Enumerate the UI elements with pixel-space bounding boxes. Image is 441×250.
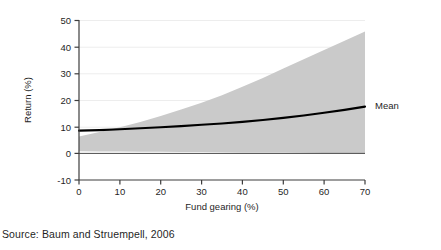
x-axis-tick-labels: 0 10 20 30 40 50 60 70	[76, 186, 370, 197]
figure-container: 50 40 30 20 10 0 -10 Return (%) 0 10	[0, 0, 441, 250]
y-tick-label-40: 40	[60, 42, 71, 53]
x-tick-label-0: 0	[76, 186, 81, 197]
source-note: Source: Baum and Struempell, 2006	[2, 228, 175, 240]
y-axis-title: Return (%)	[22, 77, 33, 123]
y-tick-label-0: 0	[66, 148, 71, 159]
x-axis-title: Fund gearing (%)	[185, 201, 258, 212]
y-tick-label-30: 30	[60, 68, 71, 79]
y-tick-label-minus10: -10	[57, 175, 71, 186]
y-tick-label-20: 20	[60, 95, 71, 106]
y-axis-ticks	[75, 21, 80, 181]
x-tick-label-30: 30	[196, 186, 207, 197]
x-tick-label-50: 50	[278, 186, 289, 197]
x-axis-ticks	[79, 180, 365, 185]
y-tick-label-50: 50	[60, 15, 71, 26]
x-tick-label-60: 60	[319, 186, 330, 197]
y-tick-label-10: 10	[60, 122, 71, 133]
x-tick-label-10: 10	[115, 186, 126, 197]
mean-series-label: Mean	[375, 100, 399, 111]
x-tick-label-20: 20	[155, 186, 166, 197]
y-axis-tick-labels: 50 40 30 20 10 0 -10	[57, 15, 71, 186]
return-vs-fund-gearing-chart: 50 40 30 20 10 0 -10 Return (%) 0 10	[0, 0, 441, 216]
x-tick-label-40: 40	[237, 186, 248, 197]
x-tick-label-70: 70	[360, 186, 371, 197]
